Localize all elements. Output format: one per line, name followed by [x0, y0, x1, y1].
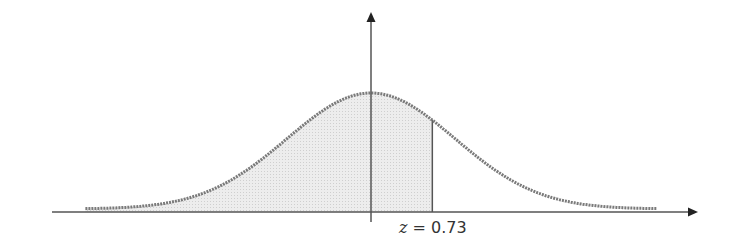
- normal-curve-chart: [0, 0, 731, 248]
- x-axis-arrow-icon: [688, 208, 698, 217]
- y-axis-arrow-icon: [367, 12, 376, 22]
- z-value-label: z = 0.73: [399, 218, 467, 237]
- shaded-area: [85, 93, 432, 212]
